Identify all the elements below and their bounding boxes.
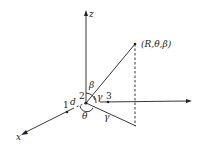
diagram-lines bbox=[0, 0, 199, 150]
z-axis-label: z bbox=[89, 10, 94, 19]
x-axis-label: x bbox=[16, 133, 21, 142]
point-1-marker bbox=[66, 111, 69, 114]
z-arrowhead-icon bbox=[84, 10, 88, 16]
point-3-label: 3 bbox=[106, 92, 112, 101]
projection-line bbox=[86, 103, 136, 126]
beta-label: β bbox=[89, 81, 94, 90]
theta-label: θ bbox=[82, 112, 87, 121]
point-3-marker bbox=[107, 101, 110, 104]
origin-marker bbox=[85, 102, 88, 105]
point-label: (R,θ,β) bbox=[141, 40, 171, 49]
point-1-label: 1 bbox=[63, 101, 69, 110]
point-marker bbox=[134, 43, 137, 46]
x-arrowhead-icon bbox=[21, 130, 28, 135]
point-2-label: 2 bbox=[79, 92, 85, 101]
gamma-upper-label: γ bbox=[97, 93, 102, 102]
gamma-lower-label: γ bbox=[104, 113, 109, 122]
y-axis bbox=[100, 101, 189, 102]
coordinate-diagram: z (R,θ,β) β 2 γ 3 1 d θ γ x bbox=[0, 0, 199, 150]
y-arrowhead-icon bbox=[186, 99, 192, 103]
distance-label: d bbox=[70, 98, 76, 107]
distance-d-dashed bbox=[76, 103, 86, 107]
